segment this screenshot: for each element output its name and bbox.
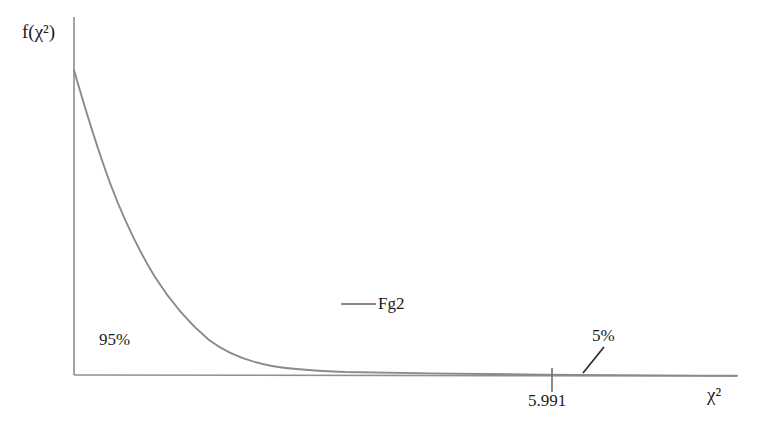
confidence-region-label: 95% <box>99 331 130 348</box>
chi-square-density-curve <box>74 70 737 376</box>
legend-entry-label: Fg2 <box>378 295 404 312</box>
plot-canvas <box>0 0 767 433</box>
y-axis-label: f(χ²) <box>22 22 55 41</box>
tail-region-label: 5% <box>592 327 615 344</box>
chi-square-distribution-figure: f(χ²) χ² 95% 5% 5.991 Fg2 <box>0 0 767 433</box>
critical-value-tick-label: 5.991 <box>528 392 566 409</box>
x-axis-label: χ² <box>707 385 721 404</box>
tail-annotation-leader-line <box>583 347 604 373</box>
